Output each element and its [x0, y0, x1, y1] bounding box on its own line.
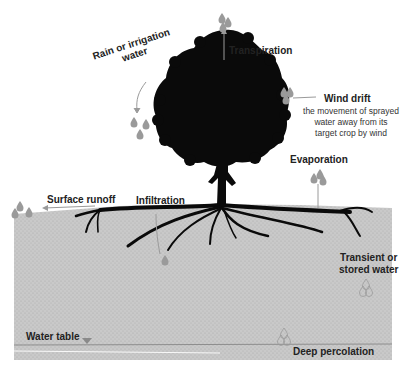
infiltration-label: Infiltration — [136, 195, 185, 206]
water-cycle-diagram: Rain or irrigation water Transpiration W… — [0, 0, 410, 372]
transient-line2: stored water — [339, 264, 398, 276]
wind-drift-desc-line3: target crop by wind — [298, 128, 404, 139]
wind-drift-arrow — [293, 97, 316, 98]
evaporation-label: Evaporation — [290, 154, 348, 165]
runoff-arrow — [44, 206, 95, 208]
wind-drift-label: Wind drift — [324, 93, 371, 104]
transient-line1: Transient or — [339, 252, 398, 264]
wind-drift-desc-line2: water away from its — [298, 117, 404, 128]
surface-runoff-label: Surface runoff — [47, 194, 115, 205]
rain-arrow — [137, 82, 146, 110]
water-table-label: Water table — [26, 331, 80, 342]
wind-drift-description: the movement of sprayed water away from … — [298, 106, 404, 139]
transpiration-label: Transpiration — [229, 45, 292, 56]
diagram-artwork — [0, 0, 410, 372]
deep-percolation-label: Deep percolation — [293, 346, 374, 357]
transient-water-label: Transient or stored water — [339, 252, 398, 276]
wind-drift-desc-line1: the movement of sprayed — [298, 106, 404, 117]
